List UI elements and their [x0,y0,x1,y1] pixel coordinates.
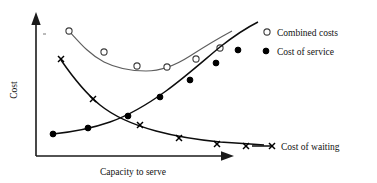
data-point-open [66,28,72,34]
data-point-cross [90,96,96,102]
cost-of-waiting-curve [61,60,264,145]
chart-canvas: Combined costs Cost of service [0,0,377,183]
data-point-filled [50,131,56,137]
x-axis-arrow-icon [221,151,234,160]
series-label-cost-of-waiting: Cost of waiting [281,142,340,152]
data-point-filled [187,77,193,83]
cost-of-service-curve [53,22,258,134]
series-label-cost-of-service: Cost of service [277,47,334,57]
data-point-filled [157,94,163,100]
combined-costs-curve [69,31,232,71]
data-point-filled [125,113,131,119]
x-axis-title: Capacity to serve [100,167,166,177]
data-point-filled [213,60,219,66]
y-axis-arrow-icon [31,12,40,25]
queueing-cost-tradeoff-chart: Combined costs Cost of service [0,0,377,183]
series-cost-of-service: Cost of service [50,22,334,137]
data-point-open [134,63,140,69]
data-point-open [193,56,199,62]
data-point-filled-legend [263,48,269,54]
data-point-open [164,64,170,70]
data-point-filled [235,47,241,53]
data-point-open [264,29,270,35]
series-label-combined-costs: Combined costs [277,28,338,38]
y-axis-title: Cost [9,81,19,99]
data-point-filled [85,125,91,131]
series-cost-of-waiting: Cost of waiting [58,56,340,152]
data-point-open [101,49,107,55]
axes-group [31,12,234,161]
